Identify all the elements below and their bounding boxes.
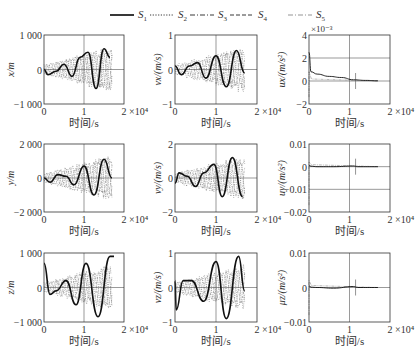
ylabel: ux/(m/s²) [276, 51, 288, 87]
xlabel: 时间/s [335, 335, 364, 347]
xtick-label: 2 [122, 324, 127, 335]
xscale-label: ×10⁴ [395, 214, 415, 225]
ytick-label: −0.01 [284, 317, 307, 328]
ytick-label: −1 000 [14, 99, 42, 110]
legend-item-s4: S4 [230, 8, 268, 23]
xtick-label: 1 [214, 106, 219, 117]
xtick-label: 2 [388, 106, 393, 117]
legend-label: S4 [258, 8, 268, 23]
ytick-label: 2 000 [20, 139, 43, 150]
ytick-label: 0 [37, 65, 42, 76]
xtick-label: 1 [214, 324, 219, 335]
xscale-label: ×10⁴ [129, 324, 149, 335]
ytick-label: 0 [302, 76, 307, 87]
panel-vx: 10−1012×10⁴时间/svx/(m/s) [152, 30, 282, 129]
xscale-label: ×10⁴ [262, 106, 282, 117]
xlabel: 时间/s [69, 225, 98, 237]
panel-vy: 20−2012×10⁴时间/svy/(m/s) [152, 139, 282, 237]
xtick-label: 2 [255, 106, 260, 117]
xscale-label: ×10⁴ [395, 324, 415, 335]
panel-uz: 0.010−0.01012×10⁴时间/sμz/(m/s²) [276, 248, 415, 347]
xtick-label: 2 [255, 214, 260, 225]
ylabel: x/m [5, 62, 16, 77]
ytick-label: 2 [302, 53, 307, 64]
series-s1 [44, 159, 112, 195]
ytick-label: 0 [302, 283, 307, 294]
ytick-label: 1 [168, 248, 173, 259]
ytick-label: 0 [302, 162, 307, 173]
xtick-label: 2 [388, 324, 393, 335]
xlabel: 时间/s [201, 225, 230, 237]
ytick-label: −2 [162, 207, 173, 218]
xtick-label: 0 [307, 214, 312, 225]
xtick-label: 0 [42, 324, 47, 335]
xlabel: 时间/s [335, 117, 364, 129]
xtick-label: 1 [82, 324, 87, 335]
panel-ux: 420−2012×10⁴×10⁻³时间/sux/(m/s²) [276, 24, 415, 129]
xscale-label: ×10⁴ [395, 106, 415, 117]
figure: S1S2S3S4S51 0000−1 000012×10⁴时间/sx/m10−1… [0, 0, 420, 358]
ytick-label: 1 000 [20, 248, 43, 259]
panel-vz: 10−1012×10⁴时间/svz/(m/s) [152, 248, 282, 347]
xscale-label: ×10⁴ [129, 214, 149, 225]
ytick-label: 0 [168, 283, 173, 294]
ylabel: vy/(m/s) [152, 161, 164, 194]
ylabel: vz/(m/s) [152, 271, 164, 303]
panel-uy: 0.010−0.01−0.02012×10⁴时间/suy/(m/s²) [276, 139, 415, 237]
xtick-label: 1 [82, 214, 87, 225]
xtick-label: 0 [307, 324, 312, 335]
ytick-label: 0 [168, 173, 173, 184]
legend-label: S1 [138, 8, 148, 23]
xtick-label: 0 [173, 106, 178, 117]
xscale-label: ×10⁴ [129, 106, 149, 117]
yscale-label: ×10⁻³ [311, 24, 333, 34]
xtick-label: 0 [42, 214, 47, 225]
ytick-label: −2 [296, 99, 307, 110]
xtick-label: 1 [82, 106, 87, 117]
ytick-label: 4 [302, 30, 307, 41]
ylabel: z/m [5, 281, 16, 296]
legend-item-s1: S1 [110, 8, 148, 23]
ytick-label: 0.01 [290, 139, 308, 150]
series-s2-s5 [309, 72, 378, 97]
ytick-label: −1 000 [14, 317, 42, 328]
xtick-label: 1 [347, 214, 352, 225]
ytick-label: −2 000 [14, 207, 42, 218]
legend-item-s3: S3 [190, 8, 228, 23]
ytick-label: 0 [37, 173, 42, 184]
xtick-label: 1 [347, 324, 352, 335]
xtick-label: 0 [173, 214, 178, 225]
ytick-label: 0.01 [290, 248, 308, 259]
legend-label: S2 [178, 8, 188, 23]
grid [44, 35, 124, 104]
ytick-label: 0 [37, 283, 42, 294]
legend-item-s2: S2 [150, 8, 188, 23]
xtick-label: 0 [42, 106, 47, 117]
ylabel: y/m [5, 171, 16, 186]
ylabel: uy/(m/s²) [276, 159, 288, 195]
xlabel: 时间/s [335, 225, 364, 237]
legend-item-s5: S5 [288, 8, 326, 23]
xlabel: 时间/s [201, 117, 230, 129]
ylabel: μz/(m/s²) [276, 269, 288, 306]
ytick-label: 1 000 [20, 30, 43, 41]
xscale-label: ×10⁴ [262, 324, 282, 335]
xtick-label: 2 [255, 324, 260, 335]
series-s1 [309, 52, 378, 81]
grid [175, 144, 257, 212]
series-s2-s5 [175, 158, 245, 199]
xlabel: 时间/s [69, 117, 98, 129]
panel-x: 1 0000−1 000012×10⁴时间/sx/m [5, 30, 149, 129]
ylabel: vx/(m/s) [152, 53, 164, 86]
xlabel: 时间/s [69, 335, 98, 347]
grid [309, 144, 390, 212]
series-s2-s5 [309, 280, 378, 316]
series-s2-s5 [309, 159, 378, 206]
xtick-label: 0 [307, 106, 312, 117]
xlabel: 时间/s [201, 335, 230, 347]
ytick-label: 0 [168, 65, 173, 76]
ytick-label: −0.02 [284, 207, 307, 218]
xtick-label: 1 [214, 214, 219, 225]
xtick-label: 1 [347, 106, 352, 117]
grid [44, 253, 124, 322]
